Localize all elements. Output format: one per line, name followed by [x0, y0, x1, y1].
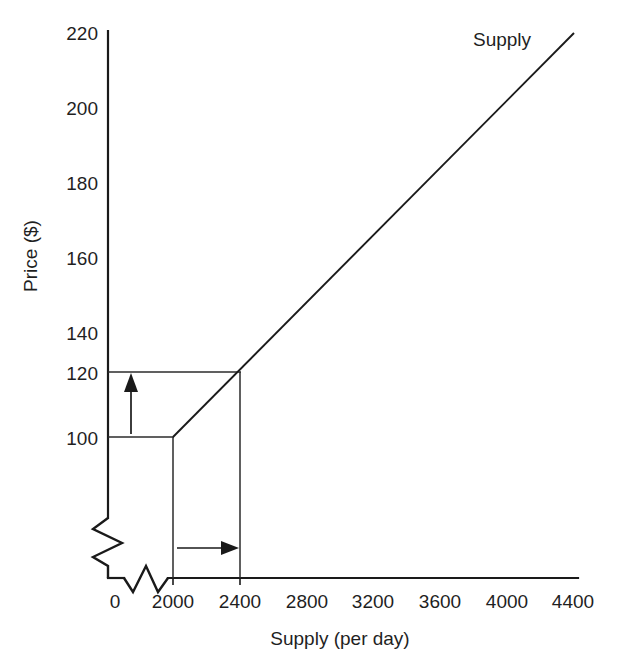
x-tick-label-2400: 2400	[219, 591, 261, 612]
x-tick-label-4400: 4400	[552, 591, 594, 612]
y-tick-label-120: 120	[66, 363, 98, 384]
chart-canvas: 220 200 180 160 140 120 100 0 2000 2400 …	[0, 0, 627, 671]
supply-curve-label: Supply	[473, 29, 532, 50]
supply-series-group	[173, 33, 574, 437]
x-axis-group	[108, 566, 578, 592]
x-axis-break-icon	[124, 566, 168, 592]
x-tick-label-4000: 4000	[486, 591, 528, 612]
x-axis-title: Supply (per day)	[270, 628, 409, 649]
y-tick-label-180: 180	[66, 173, 98, 194]
x-tick-label-2000: 2000	[152, 591, 194, 612]
price-increase-arrow-group	[124, 373, 138, 434]
x-tick-label-2800: 2800	[286, 591, 328, 612]
supply-curve-figure: 220 200 180 160 140 120 100 0 2000 2400 …	[0, 0, 627, 671]
y-tick-label-160: 160	[66, 248, 98, 269]
y-tick-label-100: 100	[66, 428, 98, 449]
y-tick-label-220: 220	[66, 23, 98, 44]
price-increase-arrow-head	[124, 373, 138, 392]
y-axis-title: Price ($)	[20, 220, 41, 292]
supply-curve-line	[173, 33, 574, 437]
quantity-increase-arrow-group	[177, 541, 239, 555]
y-tick-labels: 220 200 180 160 140 120 100 0	[66, 23, 120, 612]
x-tick-labels: 2000 2400 2800 3200 3600 4000 4400	[152, 591, 594, 612]
x-tick-label-3200: 3200	[352, 591, 394, 612]
y-axis-break-icon	[93, 518, 122, 578]
y-tick-label-200: 200	[66, 98, 98, 119]
y-tick-label-140: 140	[66, 323, 98, 344]
x-tick-label-3600: 3600	[419, 591, 461, 612]
y-tick-label-0: 0	[110, 591, 121, 612]
quantity-increase-arrow-head	[221, 541, 239, 555]
